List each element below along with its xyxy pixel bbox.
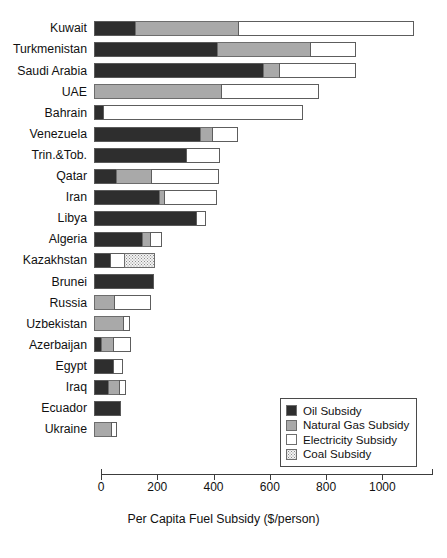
bar-segment-oil bbox=[94, 42, 218, 57]
x-tick-label: 600 bbox=[260, 480, 280, 494]
stacked-bar[interactable] bbox=[94, 105, 303, 120]
bar-segment-electricity bbox=[114, 295, 151, 310]
bar-segment-oil bbox=[94, 21, 136, 36]
bar-track bbox=[94, 295, 447, 310]
bar-segment-oil bbox=[94, 359, 114, 374]
chart-row: Libya bbox=[0, 208, 447, 229]
bar-segment-oil bbox=[94, 148, 187, 163]
bar-segment-natural_gas bbox=[263, 63, 280, 78]
legend-item[interactable]: Oil Subsidy bbox=[286, 404, 409, 418]
bar-track bbox=[94, 190, 447, 205]
stacked-bar[interactable] bbox=[94, 127, 238, 142]
category-label: Saudi Arabia bbox=[0, 65, 94, 77]
category-label: Kuwait bbox=[0, 22, 94, 34]
bar-segment-electricity bbox=[151, 169, 219, 184]
x-tick-label: 200 bbox=[147, 480, 167, 494]
stacked-bar-chart: KuwaitTurkmenistanSaudi ArabiaUAEBahrain… bbox=[0, 0, 447, 558]
legend-item[interactable]: Natural Gas Subsidy bbox=[286, 418, 409, 432]
chart-plot-area: KuwaitTurkmenistanSaudi ArabiaUAEBahrain… bbox=[0, 18, 447, 440]
chart-legend: Oil SubsidyNatural Gas SubsidyElectricit… bbox=[280, 398, 417, 467]
bar-segment-electricity bbox=[111, 422, 117, 437]
stacked-bar[interactable] bbox=[94, 211, 206, 226]
bar-segment-electricity bbox=[110, 253, 125, 268]
bar-track bbox=[94, 274, 447, 289]
legend-label: Coal Subsidy bbox=[303, 448, 371, 460]
stacked-bar[interactable] bbox=[94, 359, 123, 374]
bar-track bbox=[94, 316, 447, 331]
bar-segment-electricity bbox=[279, 63, 356, 78]
x-axis-title: Per Capita Fuel Subsidy ($/person) bbox=[0, 512, 447, 526]
stacked-bar[interactable] bbox=[94, 169, 219, 184]
bar-track bbox=[94, 127, 447, 142]
category-label: Russia bbox=[0, 297, 94, 309]
category-label: Algeria bbox=[0, 233, 94, 245]
bar-segment-electricity bbox=[113, 337, 131, 352]
axis-cap-right bbox=[432, 469, 433, 475]
bar-track bbox=[94, 84, 447, 99]
bar-segment-electricity bbox=[119, 380, 126, 395]
stacked-bar[interactable] bbox=[94, 232, 162, 247]
category-label: Uzbekistan bbox=[0, 318, 94, 330]
bar-track bbox=[94, 105, 447, 120]
chart-row: Azerbaijan bbox=[0, 334, 447, 355]
chart-row: Kuwait bbox=[0, 18, 447, 39]
category-label: Trin.&Tob. bbox=[0, 149, 94, 161]
bar-segment-electricity bbox=[212, 127, 239, 142]
bar-segment-coal bbox=[124, 253, 155, 268]
x-tick-label: 400 bbox=[204, 480, 224, 494]
chart-row: Egypt bbox=[0, 356, 447, 377]
chart-row: Iran bbox=[0, 187, 447, 208]
bar-segment-natural_gas bbox=[94, 316, 124, 331]
stacked-bar[interactable] bbox=[94, 253, 155, 268]
bar-segment-oil bbox=[94, 401, 121, 416]
legend-item[interactable]: Electricity Subsidy bbox=[286, 433, 409, 447]
stacked-bar[interactable] bbox=[94, 316, 130, 331]
legend-item[interactable]: Coal Subsidy bbox=[286, 447, 409, 461]
bar-segment-oil bbox=[94, 190, 160, 205]
category-label: Azerbaijan bbox=[0, 339, 94, 351]
bar-track bbox=[94, 42, 447, 57]
stacked-bar[interactable] bbox=[94, 21, 414, 36]
chart-row: Algeria bbox=[0, 229, 447, 250]
stacked-bar[interactable] bbox=[94, 148, 220, 163]
category-label: Kazakhstan bbox=[0, 254, 94, 266]
legend-label: Natural Gas Subsidy bbox=[303, 419, 409, 431]
chart-row: Venezuela bbox=[0, 123, 447, 144]
bar-segment-oil bbox=[94, 380, 109, 395]
chart-row: Trin.&Tob. bbox=[0, 145, 447, 166]
stacked-bar[interactable] bbox=[94, 337, 131, 352]
chart-row: Saudi Arabia bbox=[0, 60, 447, 81]
stacked-bar[interactable] bbox=[94, 63, 356, 78]
stacked-bar[interactable] bbox=[94, 42, 356, 57]
bar-segment-oil bbox=[94, 169, 117, 184]
category-label: Egypt bbox=[0, 360, 94, 372]
stacked-bar[interactable] bbox=[94, 274, 154, 289]
bar-segment-electricity bbox=[221, 84, 319, 99]
bar-segment-electricity bbox=[164, 190, 217, 205]
bar-segment-electricity bbox=[150, 232, 163, 247]
stacked-bar[interactable] bbox=[94, 401, 121, 416]
stacked-bar[interactable] bbox=[94, 295, 151, 310]
x-axis bbox=[101, 474, 433, 475]
bar-segment-electricity bbox=[113, 359, 123, 374]
bar-segment-oil bbox=[94, 63, 264, 78]
stacked-bar[interactable] bbox=[94, 422, 117, 437]
category-label: Ecuador bbox=[0, 402, 94, 414]
chart-row: Kazakhstan bbox=[0, 250, 447, 271]
bar-segment-electricity bbox=[196, 211, 206, 226]
stacked-bar[interactable] bbox=[94, 84, 319, 99]
bar-track bbox=[94, 232, 447, 247]
category-label: Venezuela bbox=[0, 128, 94, 140]
category-label: Iran bbox=[0, 191, 94, 203]
stacked-bar[interactable] bbox=[94, 190, 217, 205]
bar-track bbox=[94, 21, 447, 36]
bar-track bbox=[94, 211, 447, 226]
category-label: UAE bbox=[0, 86, 94, 98]
category-label: Turkmenistan bbox=[0, 43, 94, 55]
chart-row: Bahrain bbox=[0, 102, 447, 123]
category-label: Libya bbox=[0, 212, 94, 224]
bar-segment-electricity bbox=[310, 42, 356, 57]
bar-segment-natural_gas bbox=[135, 21, 239, 36]
stacked-bar[interactable] bbox=[94, 380, 126, 395]
x-tick-label: 0 bbox=[98, 480, 105, 494]
